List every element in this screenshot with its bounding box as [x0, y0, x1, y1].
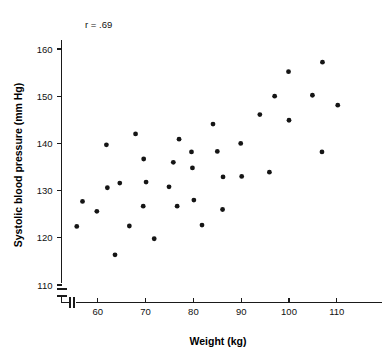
data-point — [104, 142, 109, 147]
data-point — [105, 185, 110, 190]
data-point — [287, 118, 292, 123]
data-point — [335, 103, 340, 108]
x-axis-title: Weight (kg) — [190, 335, 247, 347]
x-axis-tick-label: 80 — [188, 306, 199, 317]
data-point — [171, 160, 176, 165]
data-point — [141, 204, 146, 209]
correlation-annotation: r = .69 — [85, 19, 112, 30]
data-point — [177, 137, 182, 142]
x-axis-tick-label: 70 — [140, 306, 151, 317]
data-point — [200, 223, 205, 228]
data-point — [141, 157, 146, 162]
y-axis-tick-label: 120 — [37, 232, 53, 243]
data-point — [144, 180, 149, 185]
data-point — [310, 93, 315, 98]
data-point — [215, 149, 220, 154]
data-point — [94, 209, 99, 214]
data-point — [320, 60, 325, 65]
x-axis-tick-label: 110 — [329, 306, 344, 317]
data-point — [238, 141, 243, 146]
data-point — [320, 150, 325, 155]
data-point — [267, 170, 272, 175]
x-axis: 60708090100110 — [76, 298, 382, 317]
data-point — [257, 112, 262, 117]
data-point — [127, 224, 132, 229]
y-axis-tick-label: 140 — [37, 138, 53, 149]
x-axis-tick-label: 90 — [236, 306, 247, 317]
y-axis: 110120130140150160 — [37, 40, 62, 291]
data-points-layer — [74, 60, 340, 257]
data-point — [189, 150, 194, 155]
chart-canvas: 110120130140150160 60708090100110 Weight… — [0, 0, 392, 355]
x-axis-tick-label: 100 — [281, 306, 297, 317]
y-axis-tick-label: 110 — [37, 280, 52, 291]
data-point — [239, 174, 244, 179]
y-axis-title: Systolic blood pressure (mm Hg) — [12, 83, 24, 248]
data-point — [152, 236, 157, 241]
data-point — [211, 122, 216, 127]
x-axis-tick-label: 60 — [93, 306, 104, 317]
data-point — [117, 181, 122, 186]
data-point — [272, 94, 277, 99]
y-axis-tick-label: 150 — [37, 91, 53, 102]
data-point — [221, 175, 226, 180]
axis-break-marks — [57, 289, 75, 308]
data-point — [167, 184, 172, 189]
data-point — [133, 132, 138, 137]
data-point — [190, 166, 195, 171]
data-point — [286, 69, 291, 74]
y-axis-tick-label: 160 — [37, 44, 53, 55]
y-axis-tick-label: 130 — [37, 185, 53, 196]
data-point — [191, 198, 196, 203]
data-point — [175, 204, 180, 209]
data-point — [74, 224, 79, 229]
data-point — [80, 199, 85, 204]
data-point — [220, 207, 225, 212]
data-point — [113, 252, 118, 257]
scatter-plot-figure: 110120130140150160 60708090100110 Weight… — [0, 0, 392, 355]
